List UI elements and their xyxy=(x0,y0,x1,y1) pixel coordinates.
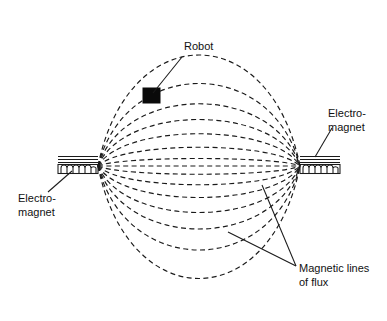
label-electromagnet-left: Electro- magnet xyxy=(18,192,56,218)
flux-line xyxy=(98,166,300,174)
flux-label-line1: Magnetic lines xyxy=(299,262,370,274)
magnetic-field-diagram: Robot Electro- magnet Electro- magnet Ma… xyxy=(0,0,387,321)
electromagnet-left xyxy=(58,157,98,174)
robot-label: Robot xyxy=(184,40,213,52)
robot-marker xyxy=(143,88,160,103)
flux-lines-group xyxy=(98,55,300,279)
diagram-canvas: Robot Electro- magnet Electro- magnet Ma… xyxy=(0,0,387,321)
label-robot: Robot xyxy=(184,40,213,52)
flux-line xyxy=(98,147,300,166)
flux-label-line2: of flux xyxy=(299,276,329,288)
label-electromagnet-right: Electro- magnet xyxy=(328,107,366,133)
flux-line xyxy=(98,166,300,198)
electromagnet-right-label-line1: Electro- xyxy=(328,107,366,119)
electromagnet-left-label-line1: Electro- xyxy=(18,192,56,204)
flux-line xyxy=(98,166,300,213)
flux-line xyxy=(98,159,300,167)
flux-line xyxy=(98,166,300,279)
magnet-coil-turns xyxy=(61,165,96,174)
electromagnet-right-label-line2: magnet xyxy=(328,121,365,133)
magnet-coil-turns xyxy=(303,165,338,174)
flux-leader-line-lower xyxy=(228,232,296,266)
label-magnetic-flux: Magnetic lines of flux xyxy=(299,262,370,288)
flux-line xyxy=(98,55,300,166)
flux-line xyxy=(98,166,300,185)
electromagnet-left-label-line2: magnet xyxy=(18,206,55,218)
electromagnet-left-leader-line xyxy=(48,171,72,192)
electromagnet-right xyxy=(300,157,340,174)
